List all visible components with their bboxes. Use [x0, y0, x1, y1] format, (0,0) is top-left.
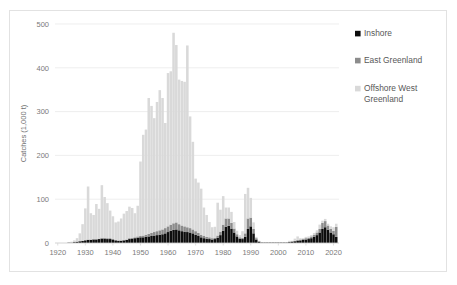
bar-segment — [255, 238, 258, 239]
bar-segment — [147, 234, 150, 237]
bar-segment — [150, 236, 153, 243]
bar-segment — [95, 204, 98, 239]
bar-segment — [159, 230, 162, 234]
bar-segment — [219, 210, 222, 232]
bar-segment — [324, 227, 327, 243]
bar-segment — [211, 227, 214, 238]
bar-segment — [175, 229, 178, 243]
bar-segment — [189, 232, 192, 243]
bar-segment — [156, 231, 159, 235]
bar-segment — [238, 235, 241, 237]
bar-segment — [90, 240, 93, 243]
bar-segment — [238, 239, 241, 243]
chart-legend: InshoreEast GreenlandOffshore WestGreenl… — [355, 28, 423, 104]
bar-segment — [159, 235, 162, 243]
bar-segment — [241, 231, 244, 238]
bar-segment — [316, 230, 319, 232]
bar-segment — [125, 240, 128, 243]
bar-segment — [192, 229, 195, 233]
x-tick-label: 1970 — [187, 248, 204, 257]
bar-segment — [101, 185, 104, 238]
bar-segment — [250, 218, 253, 227]
bar-segment — [139, 236, 142, 237]
bar-segment — [241, 238, 244, 239]
bar-segment — [194, 179, 197, 232]
bar-segment — [288, 241, 291, 242]
bar-segment — [236, 236, 239, 243]
bar-segment — [327, 225, 330, 229]
y-tick-label: 300 — [36, 107, 49, 116]
bar-segment — [183, 82, 186, 227]
x-tick-label: 2020 — [325, 248, 342, 257]
bar-segment — [183, 226, 186, 231]
bar-segment — [186, 232, 189, 243]
bar-segment — [302, 239, 305, 240]
bar-segment — [318, 229, 321, 233]
bar-segment — [208, 222, 211, 237]
legend-label-text: East Greenland — [364, 55, 423, 65]
bar-segment — [170, 231, 173, 243]
bar-segment — [90, 213, 93, 239]
bar-segment — [92, 215, 95, 239]
bar-segment — [324, 221, 327, 227]
bar-segment — [307, 238, 310, 239]
bar-segment — [164, 123, 167, 228]
bar-segment — [189, 116, 192, 228]
bar-segment — [238, 237, 241, 238]
bar-segment — [318, 225, 321, 229]
bar-segment — [153, 118, 156, 232]
bar-segment — [244, 233, 247, 237]
bar-segment — [142, 236, 145, 238]
bar-segment — [302, 238, 305, 239]
bar-segment — [329, 232, 332, 243]
bar-segment — [335, 224, 338, 227]
bar-segment — [227, 226, 230, 243]
bar-segment — [214, 238, 217, 239]
bar-segment — [214, 227, 217, 238]
bar-segment — [136, 236, 139, 237]
bar-segment — [192, 233, 195, 243]
bar-segment — [299, 238, 302, 239]
legend-swatch — [355, 58, 361, 64]
legend-label-text: Offshore West — [364, 83, 418, 93]
bar-segment — [87, 240, 90, 243]
bar-segment — [172, 230, 175, 243]
bar-segment — [153, 232, 156, 236]
legend-label-text: Greenland — [364, 94, 403, 104]
bar-segment — [101, 239, 104, 243]
bar-segment — [142, 237, 145, 243]
bar-segment — [172, 223, 175, 230]
bar-segment — [145, 237, 148, 243]
bar-segment — [103, 239, 106, 243]
bar-segment — [305, 238, 308, 239]
bar-segment — [310, 235, 313, 236]
bar-segment — [197, 236, 200, 243]
bar-segment — [230, 229, 233, 243]
bar-segment — [335, 227, 338, 237]
bar-segment — [139, 237, 142, 243]
bar-segment — [227, 218, 230, 225]
bar-segment — [159, 90, 162, 230]
bar-segment — [178, 80, 181, 225]
bar-segment — [81, 224, 84, 241]
bar-segment — [147, 236, 150, 243]
bar-segment — [136, 238, 139, 243]
y-axis-title: Catches (1,000 t) — [19, 104, 28, 162]
bar-segment — [181, 231, 184, 243]
bar-segment — [142, 135, 145, 236]
bar-segment — [128, 207, 131, 239]
bar-segment — [316, 235, 319, 243]
bar-segment — [164, 233, 167, 243]
x-tick-label: 1920 — [49, 248, 66, 257]
bar-segment — [150, 233, 153, 236]
bar-segment — [186, 45, 189, 227]
bar-segment — [167, 226, 170, 232]
bar-segment — [117, 222, 120, 241]
bar-segment — [156, 102, 159, 231]
bar-segment — [250, 226, 253, 243]
bar-segment — [205, 237, 208, 239]
bar-segment — [197, 183, 200, 233]
bar-segment — [233, 222, 236, 229]
bar-segment — [101, 238, 104, 239]
bar-segment — [327, 224, 330, 226]
